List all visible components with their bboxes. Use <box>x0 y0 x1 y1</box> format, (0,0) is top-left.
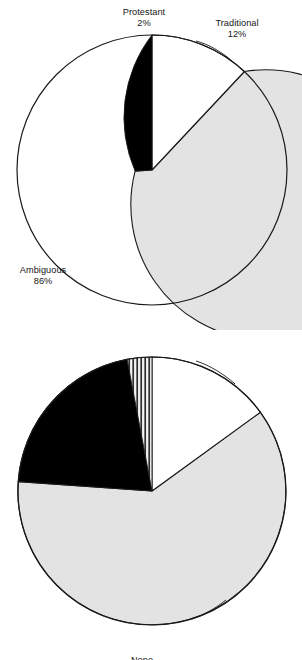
pie-slice-protestant <box>124 35 152 171</box>
pie-label-ambiguous-value: 86% <box>2 276 84 287</box>
pie-label-none-name: None <box>111 655 173 660</box>
pie-label-traditional: Traditional 12% <box>196 18 278 40</box>
pie-label-protestant: Protestant 2% <box>104 7 184 29</box>
pie-label-none: None 3% <box>111 655 173 660</box>
pie-chart-top: Protestant 2% Traditional 12% Ambiguous … <box>0 0 302 330</box>
pie-label-protestant-value: 2% <box>104 18 184 29</box>
pie-chart-bottom-graphic <box>0 325 302 660</box>
pie-label-ambiguous-name: Ambiguous <box>2 265 84 276</box>
pie-label-ambiguous: Ambiguous 86% <box>2 265 84 287</box>
pie-label-traditional-value: 12% <box>196 29 278 40</box>
pie-chart-figure: Protestant 2% Traditional 12% Ambiguous … <box>0 0 302 660</box>
pie-label-traditional-name: Traditional <box>196 18 278 29</box>
pie-chart-bottom: None 3% Traditional 15% Protestant 23% A… <box>0 325 302 660</box>
pie-label-protestant-name: Protestant <box>104 7 184 18</box>
